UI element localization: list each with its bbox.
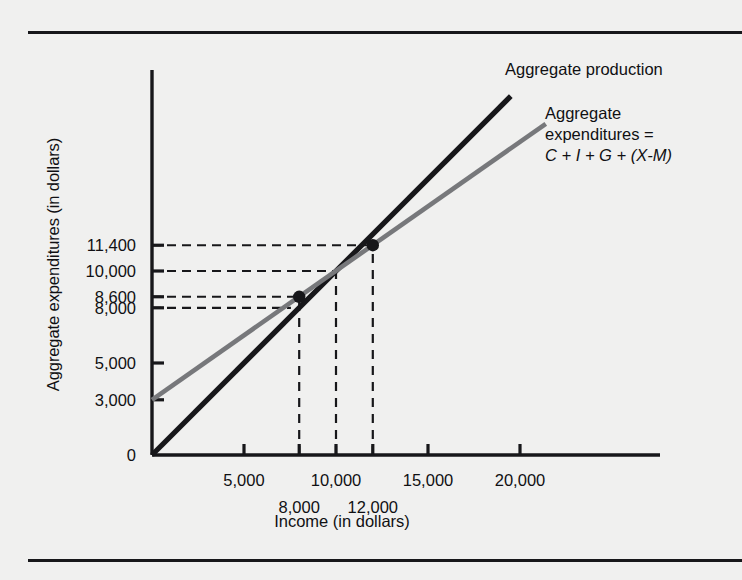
y-tick-label-11400: 11,400 (30, 236, 136, 255)
data-point-high (367, 239, 379, 251)
y-tick-label-10000: 10,000 (30, 262, 136, 281)
x-tick-label-12000: 12,000 (348, 498, 398, 517)
legend-label-aggregate-expenditures: Aggregate expenditures = C + I + G + (X-… (545, 103, 672, 166)
legend-expenditures-formula: C + I + G + (X-M) (545, 145, 672, 166)
legend-label-aggregate-production: Aggregate production (505, 59, 663, 80)
x-tick-label-5000: 5,000 (223, 471, 264, 490)
legend-production-text: Aggregate production (505, 60, 663, 78)
x-tick-label-10000: 10,000 (311, 471, 361, 490)
legend-expenditures-line1: Aggregate (545, 103, 672, 124)
series-line-aggregate-expenditures (152, 124, 546, 400)
x-tick-label-15000: 15,000 (403, 471, 453, 490)
y-tick-label-3000: 3,000 (30, 390, 136, 409)
y-tick-label-8600: 8,600 (30, 287, 136, 306)
y-tick-label-0: 0 (30, 446, 136, 465)
y-tick-label-5000: 5,000 (30, 354, 136, 373)
x-axis-title: Income (in dollars) (152, 512, 532, 531)
figure-panel: Aggregate expenditures (in dollars) Inco… (0, 0, 742, 580)
legend-expenditures-line2: expenditures = (545, 124, 672, 145)
x-tick-label-20000: 20,000 (495, 471, 545, 490)
x-tick-label-8000: 8,000 (279, 498, 320, 517)
data-point-low (293, 291, 305, 303)
